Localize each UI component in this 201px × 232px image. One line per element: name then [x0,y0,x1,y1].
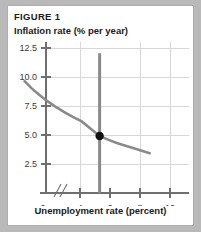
phillips-curve-plot: 12.5 10.0 7.5 5.0 2.5 0 4 6 8 10 [8,36,193,206]
y-tick-labels: 12.5 10.0 7.5 5.0 2.5 [19,43,37,169]
vertical-gridlines [80,42,170,193]
phillips-curve-line [25,81,150,153]
y-tick-label-12.5: 12.5 [19,43,37,53]
y-tick-label-5.0: 5.0 [24,130,37,140]
y-tick-label-10.0: 10.0 [19,72,37,82]
horizontal-gridlines [46,48,189,164]
equilibrium-point [95,132,103,140]
figure-card: FIGURE 1 Inflation rate (% per year) [8,6,193,225]
y-tick-label-2.5: 2.5 [24,159,37,169]
y-tick-label-7.5: 7.5 [24,101,37,111]
x-axis-title: Unemployment rate (percent) [8,205,193,216]
x-axis-break-icon [54,184,67,197]
y-axis-title: Inflation rate (% per year) [14,25,128,36]
figure-number-label: FIGURE 1 [14,11,60,22]
